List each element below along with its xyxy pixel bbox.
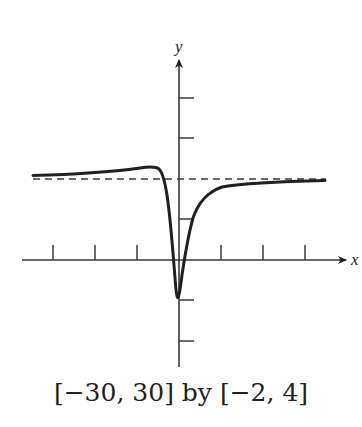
plot-area: y x: [0, 0, 362, 427]
window-caption: [−30, 30] by [−2, 4]: [0, 378, 362, 407]
y-axis-label: y: [173, 37, 183, 56]
x-axis-label: x: [350, 250, 359, 269]
